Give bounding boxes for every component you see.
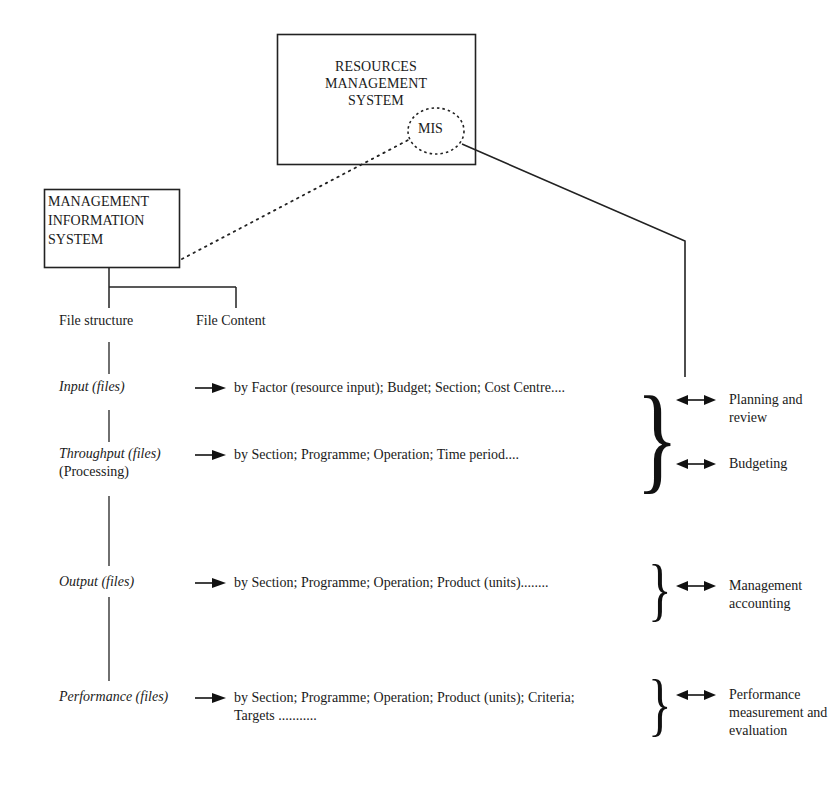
use-budgeting: Budgeting	[729, 455, 787, 473]
content-line: Targets ...........	[234, 707, 575, 725]
mis-title-line: MANAGEMENT	[48, 192, 149, 211]
use-line: evaluation	[729, 722, 827, 740]
row-content-throughput: by Section; Programme; Operation; Time p…	[234, 446, 519, 464]
mis-title-line: INFORMATION	[48, 211, 149, 230]
use-performance-measurement: Performance measurement and evaluation	[729, 686, 827, 740]
rms-title-line: SYSTEM	[277, 92, 475, 109]
double-arrow-icon	[676, 459, 716, 469]
row-label-output: Output (files)	[59, 574, 134, 590]
use-line: measurement and	[729, 704, 827, 722]
file-structure-label: File structure	[59, 313, 133, 329]
right-arrow-icon	[195, 450, 226, 460]
rms-title-line: MANAGEMENT	[277, 75, 475, 92]
use-planning-review: Planning and review	[729, 391, 803, 427]
row-sublabel-throughput: (Processing)	[59, 464, 129, 480]
use-line: accounting	[729, 595, 802, 613]
use-line: Management	[729, 577, 802, 595]
row-content-performance: by Section; Programme; Operation; Produc…	[234, 689, 575, 725]
mis-circle-label: MIS	[418, 121, 443, 137]
double-arrow-icon	[676, 690, 716, 700]
row-content-input: by Factor (resource input); Budget; Sect…	[234, 379, 565, 397]
file-content-label: File Content	[196, 313, 266, 329]
right-arrow-icon	[195, 578, 226, 588]
brace-icon-large: }	[636, 380, 678, 498]
rms-title-line: RESOURCES	[277, 58, 475, 75]
brace-icon: }	[648, 555, 672, 625]
use-line: Budgeting	[729, 455, 787, 473]
dotted-link	[182, 138, 412, 259]
mis-box-title: MANAGEMENT INFORMATION SYSTEM	[48, 192, 149, 249]
solid-link	[462, 144, 685, 377]
use-line: review	[729, 409, 803, 427]
row-label-throughput: Throughput (files)	[59, 446, 161, 462]
rms-box-title: RESOURCES MANAGEMENT SYSTEM	[277, 58, 475, 109]
row-content-output: by Section; Programme; Operation; Produc…	[234, 574, 549, 592]
right-arrow-icon	[195, 693, 226, 703]
double-arrow-icon	[676, 395, 716, 405]
use-line: Performance	[729, 686, 827, 704]
double-arrow-icon	[676, 581, 716, 591]
mis-title-line: SYSTEM	[48, 230, 149, 249]
row-label-input: Input (files)	[59, 379, 125, 395]
right-arrow-icon	[195, 383, 226, 393]
content-line: by Section; Programme; Operation; Produc…	[234, 689, 575, 707]
use-line: Planning and	[729, 391, 803, 409]
use-management-accounting: Management accounting	[729, 577, 802, 613]
brace-icon: }	[648, 670, 672, 740]
row-label-performance: Performance (files)	[59, 689, 168, 705]
